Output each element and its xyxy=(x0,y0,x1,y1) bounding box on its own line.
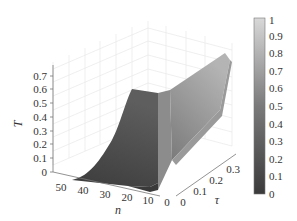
z-tick: 0.4 xyxy=(33,111,47,123)
colorbar-tick: 0.7 xyxy=(269,65,283,77)
z-tick: 0.5 xyxy=(33,97,47,109)
n-tick: 30 xyxy=(100,188,112,200)
z-axis: 0 0.1 0.2 0.3 0.4 0.5 0.6 0.7 T xyxy=(11,65,53,178)
tau-axis-label: τ xyxy=(215,193,220,207)
surface-plot: 0 0.1 0.2 0.3 0.4 0.5 0.6 0.7 T 50 40 30… xyxy=(0,0,297,221)
z-tick: 0.3 xyxy=(33,125,47,137)
colorbar-tick: 0.8 xyxy=(269,47,283,59)
colorbar-tick: 0.4 xyxy=(269,118,283,130)
n-tick: 50 xyxy=(56,181,68,193)
tau-tick: 0.2 xyxy=(209,174,223,186)
n-tick: 0 xyxy=(164,196,170,208)
colorbar-tick: 0 xyxy=(269,188,275,200)
colorbar-tick: 0.1 xyxy=(269,170,283,182)
surface xyxy=(72,53,232,192)
tau-tick: 0.3 xyxy=(226,163,240,175)
tau-tick: 0 xyxy=(180,196,186,208)
colorbar: 0 0.1 0.2 0.3 0.4 0.5 0.6 0.7 0.8 0.9 1 xyxy=(254,14,283,200)
z-tick: 0 xyxy=(42,166,48,178)
z-tick: 0.7 xyxy=(33,70,47,82)
colorbar-tick: 0.5 xyxy=(269,100,283,112)
tau-axis: 0 0.1 0.2 0.3 τ xyxy=(176,154,240,208)
colorbar-tick: 1 xyxy=(269,14,275,26)
n-tick: 20 xyxy=(122,191,134,203)
tau-tick: 0.1 xyxy=(193,185,207,197)
n-tick: 40 xyxy=(78,184,90,196)
colorbar-tick: 0.9 xyxy=(269,30,283,42)
z-tick: 0.1 xyxy=(33,152,47,164)
colorbar-tick: 0.6 xyxy=(269,82,283,94)
n-axis-label: n xyxy=(115,203,121,217)
z-axis-label: T xyxy=(11,119,25,127)
n-tick: 10 xyxy=(143,194,155,206)
colorbar-tick: 0.2 xyxy=(269,153,283,165)
colorbar-tick: 0.3 xyxy=(269,135,283,147)
z-tick: 0.2 xyxy=(33,138,47,150)
z-tick: 0.6 xyxy=(33,83,47,95)
